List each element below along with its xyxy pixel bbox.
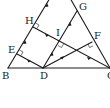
arrow-mark-dg-1 — [68, 22, 72, 26]
geometry-diagram: H E B D G I F C — [0, 0, 110, 108]
right-angle-h — [36, 23, 40, 29]
label-h: H — [25, 15, 34, 26]
label-d: D — [40, 70, 48, 81]
side-ab — [8, 0, 50, 68]
right-angle-e — [20, 50, 24, 56]
label-c: C — [107, 70, 110, 81]
label-f: F — [94, 30, 101, 41]
label-b: B — [2, 70, 9, 81]
arrow-mark-dg-2 — [50, 52, 54, 56]
label-e: E — [8, 44, 15, 55]
right-angle-i — [58, 44, 64, 48]
label-i: I — [56, 27, 60, 38]
label-g: G — [79, 1, 87, 12]
right-angle-f — [88, 44, 93, 48]
